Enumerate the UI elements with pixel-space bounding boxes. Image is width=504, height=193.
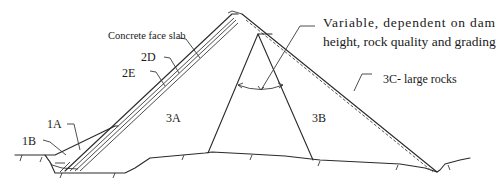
label-zone-2e: 2E [122,66,135,80]
dam-cross-section-diagram: Concrete face slab 2D 2E 1A 1B 3A 3B 3C-… [0,0,504,193]
variable-angle-arc [238,26,315,90]
label-zone-3b: 3B [312,111,326,125]
label-zone-3c: 3C- large rocks [383,72,457,86]
label-zone-1a: 1A [47,117,62,131]
label-zone-3a: 3A [166,111,181,125]
label-variable-line2: height, rock quality and grading [323,34,496,49]
label-concrete-face-slab: Concrete face slab [108,30,186,41]
label-zone-2d: 2D [141,50,156,64]
foundation-line [15,152,470,173]
label-variable-line1: Variable, dependent on dam [323,15,495,30]
zone-boundary-lines [208,34,313,160]
label-zone-1b: 1B [22,134,36,148]
